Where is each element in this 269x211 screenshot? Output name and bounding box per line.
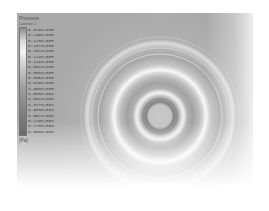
legend-subtitle: Contour 1 [19, 21, 39, 26]
legend-tick: 5.249e+005 [28, 32, 54, 37]
legend-tick: 5.161e+005 [28, 48, 54, 53]
contour-plot-viewport: Pressure Contour 1 5.379e+005 5.249e+005… [17, 13, 253, 211]
pressure-legend: Pressure Contour 1 [19, 16, 39, 26]
legend-tick: 5.061e+005 [28, 64, 54, 69]
legend-tick: 5.019e+005 [28, 80, 54, 85]
legend-tick: 8.273e+004 [28, 123, 54, 128]
legend-tick-labels: 5.379e+005 5.249e+005 5.123e+005 5.187e+… [28, 27, 54, 134]
legend-tick: 8.903e+004 [28, 107, 54, 112]
legend-colorbar [19, 27, 27, 136]
legend-unit: [Pa] [19, 137, 28, 143]
legend-tick: 8.008e+004 [28, 129, 54, 134]
